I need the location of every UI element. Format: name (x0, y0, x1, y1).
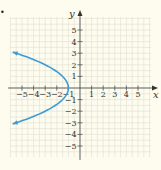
grid-lines (10, 17, 151, 157)
x-tick-label: −5 (16, 90, 28, 99)
y-tick-label: 2 (71, 61, 76, 70)
x-tick-label: −4 (28, 90, 40, 99)
y-tick-label: 5 (71, 26, 76, 35)
y-tick-label: 3 (71, 49, 76, 58)
y-tick-label: −2 (65, 107, 77, 116)
y-axis-arrow-icon (78, 10, 83, 16)
y-tick-label: −4 (65, 130, 77, 139)
bullet-marker: • (0, 8, 5, 17)
curve-arrow-icon (13, 120, 18, 124)
y-tick-label: 4 (71, 38, 76, 47)
x-tick-label: 1 (89, 90, 94, 99)
tick-marks: −5−4−3−2−112345−5−4−3−2−112345 (16, 26, 140, 151)
y-tick-label: 1 (71, 72, 76, 81)
y-tick-label: −5 (65, 142, 77, 151)
curve-arrow-icon (13, 51, 18, 55)
x-tick-label: −3 (39, 90, 51, 99)
x-tick-label: −2 (51, 90, 63, 99)
x-tick-label: 4 (124, 90, 129, 99)
y-tick-label: −3 (65, 119, 77, 128)
x-tick-label: 2 (101, 90, 106, 99)
y-axis-label: y (68, 8, 75, 19)
x-tick-label: 3 (112, 90, 117, 99)
parabola-graph: −5−4−3−2−112345−5−4−3−2−112345 • y x (0, 0, 161, 170)
axes (8, 10, 158, 160)
x-axis-label: x (153, 89, 159, 100)
x-tick-label: 5 (135, 90, 140, 99)
y-tick-label: −1 (65, 96, 77, 105)
